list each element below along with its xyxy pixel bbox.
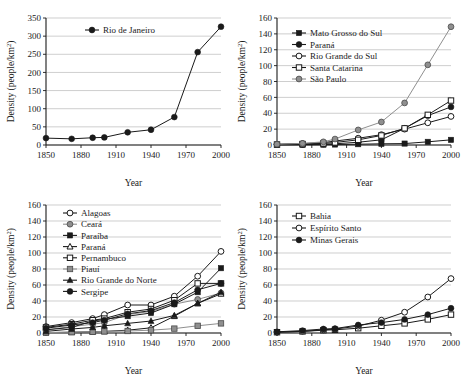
legend-item[interactable]: Paraíba — [63, 231, 108, 241]
data-point-open-circle — [125, 302, 131, 308]
x-tick-label: 1940 — [142, 338, 161, 348]
legend-label: Rio Grande do Norte — [81, 275, 157, 285]
data-point-open-square — [356, 137, 361, 142]
y-tick-label: 60 — [263, 280, 273, 290]
panel-bottom-left: 0204060801001201401601850188019101940197… — [0, 189, 231, 377]
x-tick-label: 1910 — [338, 338, 357, 348]
data-point-filled-circle — [101, 134, 107, 140]
y-tick-label: 80 — [263, 77, 273, 87]
data-point-filled-circle — [274, 329, 280, 335]
data-point-filled-circle — [90, 135, 96, 141]
y-tick-label: 60 — [263, 93, 273, 103]
legend-item[interactable]: São Paulo — [292, 74, 347, 84]
data-point-gray-circle — [379, 119, 385, 125]
panel-bottom-right: 0204060801001201401601850188019101940197… — [231, 189, 461, 377]
x-axis-title: Year — [125, 178, 143, 188]
x-axis-ticks: 185018801910194019702000 — [37, 145, 231, 160]
x-tick-label: 1850 — [37, 150, 56, 160]
y-tick-label: 120 — [28, 232, 42, 242]
data-point-filled-circle — [332, 326, 338, 332]
legend-item[interactable]: Rio de Janeiro — [85, 25, 155, 35]
legend-marker-filled-square — [292, 30, 306, 35]
y-tick-label: 120 — [259, 232, 273, 242]
svg-text:Density (people/km2): Density (people/km2) — [5, 228, 18, 310]
legend-label: Pernambuco — [81, 253, 126, 263]
data-point-filled-circle — [101, 317, 107, 323]
legend-marker-filled-circle — [292, 42, 306, 48]
legend-item[interactable]: Rio Grande do Sul — [292, 51, 378, 61]
legend-item[interactable]: Paraná — [63, 242, 106, 252]
data-point-filled-circle — [195, 287, 201, 293]
legend-item[interactable]: Paraná — [292, 40, 335, 50]
data-point-gray-circle — [321, 139, 327, 145]
legend-item[interactable]: Sergipe — [63, 287, 108, 297]
x-tick-label: 1880 — [303, 338, 322, 348]
legend-marker-open-triangle — [63, 243, 77, 249]
data-point-filled-square — [218, 266, 223, 271]
legend-item[interactable]: Mato Grosso do Sul — [292, 28, 383, 38]
data-point-filled-circle — [171, 114, 177, 120]
legend-label: Paraná — [310, 40, 335, 50]
legend-label: Mato Grosso do Sul — [310, 28, 383, 38]
legend-label: Bahia — [310, 211, 331, 221]
data-point-gray-square — [148, 328, 153, 333]
series-esp-rito-santo — [274, 276, 454, 335]
legend-item[interactable]: Pernambuco — [63, 253, 126, 263]
y-tick-label: 150 — [28, 86, 42, 96]
data-point-gray-circle — [296, 76, 302, 82]
y-tick-label: 20 — [32, 312, 42, 322]
y-tick-label: 250 — [28, 49, 42, 59]
x-axis-ticks: 185018801910194019702000 — [268, 145, 461, 160]
legend-item[interactable]: Espírito Santo — [292, 223, 362, 233]
x-tick-label: 1850 — [268, 338, 287, 348]
x-tick-label: 1880 — [72, 338, 91, 348]
data-point-open-circle — [448, 276, 454, 282]
panel-top-right: 0204060801001201401601850188019101940197… — [231, 0, 461, 189]
y-tick-label: 350 — [28, 13, 42, 23]
y-tick-label: 0 — [37, 140, 42, 150]
legend: Mato Grosso do SulParanáRio Grande do Su… — [292, 28, 383, 84]
data-point-filled-square — [67, 233, 72, 238]
legend-marker-gray-circle — [63, 221, 77, 227]
legend-label: Rio de Janeiro — [103, 25, 155, 35]
series-rio-de-janeiro — [43, 24, 224, 142]
legend-item[interactable]: Rio Grande do Norte — [63, 275, 157, 285]
y-axis-ticks: 020406080100120140160 — [259, 13, 278, 150]
y-tick-label: 0 — [268, 140, 273, 150]
y-axis-title: Density (people/km2) — [236, 228, 249, 310]
legend-label: Minas Gerais — [310, 235, 359, 245]
legend: AlagoasCearáParaíbaParanáPernambucoPiauí… — [63, 208, 157, 296]
data-point-filled-circle — [67, 289, 73, 295]
panel-top-left: 0501001502002503003501850188019101940197… — [0, 0, 231, 189]
legend-item[interactable]: Alagoas — [63, 208, 111, 218]
x-tick-label: 2000 — [212, 150, 231, 160]
y-tick-label: 160 — [28, 200, 42, 210]
legend-item[interactable]: Piauí — [63, 264, 100, 274]
y-tick-label: 80 — [263, 264, 273, 274]
legend-label: Ceará — [81, 219, 102, 229]
y-tick-label: 80 — [32, 264, 42, 274]
data-point-gray-circle — [448, 24, 454, 30]
x-tick-label: 1970 — [407, 150, 426, 160]
data-point-open-circle — [425, 294, 431, 300]
data-point-gray-square — [218, 321, 223, 326]
svg-text:Density (people/km2): Density (people/km2) — [236, 41, 249, 123]
legend-item[interactable]: Bahia — [292, 211, 331, 221]
x-tick-label: 1970 — [177, 338, 196, 348]
y-tick-label: 100 — [259, 248, 273, 258]
y-tick-label: 140 — [259, 29, 273, 39]
data-point-gray-circle — [355, 127, 361, 133]
data-point-open-circle — [195, 273, 201, 279]
data-point-gray-circle — [274, 141, 280, 147]
data-point-open-circle — [218, 249, 224, 255]
legend-item[interactable]: Santa Catarina — [292, 63, 363, 73]
data-point-open-circle — [448, 114, 454, 120]
y-tick-label: 160 — [259, 200, 273, 210]
x-tick-label: 1970 — [177, 150, 196, 160]
data-series-group — [274, 276, 454, 335]
data-point-filled-circle — [43, 325, 49, 331]
data-point-filled-square — [425, 139, 430, 144]
legend-label: Paraíba — [81, 231, 108, 241]
y-tick-label: 100 — [28, 248, 42, 258]
legend-marker-gray-square — [63, 266, 77, 271]
